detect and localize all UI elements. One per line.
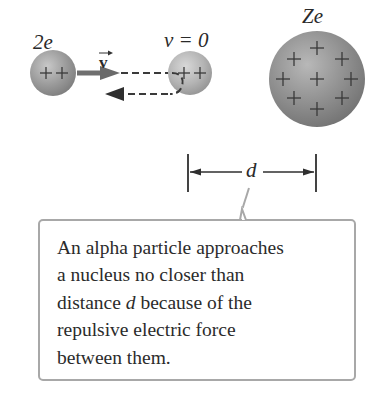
callout-text: An alpha particle approaches a nucleus n… — [57, 234, 357, 371]
stopped-velocity-label: v = 0 — [164, 30, 209, 51]
callout-box: An alpha particle approaches a nucleus n… — [38, 219, 356, 381]
callout-line-3: distance d because of the — [57, 289, 357, 316]
callout-line-3-post: because of the — [136, 292, 252, 313]
velocity-label: v — [99, 54, 108, 71]
nucleus-charge-label: Ze — [302, 6, 323, 27]
callout-notch — [228, 206, 258, 222]
callout-line-1: An alpha particle approaches — [57, 234, 357, 261]
nucleus — [269, 31, 365, 127]
alpha-charge-label: 2e — [33, 32, 53, 53]
v-eq-zero-text: v = 0 — [164, 28, 209, 52]
callout-line-2: a nucleus no closer than — [57, 261, 357, 288]
distance-label: d — [246, 160, 257, 181]
alpha-particle-moving — [30, 50, 76, 96]
callout-line-5: between them. — [57, 344, 357, 371]
callout-line-3-pre: distance — [57, 292, 126, 313]
callout-line-4: repulsive electric force — [57, 316, 357, 343]
callout-variable-d: d — [126, 292, 136, 313]
return-arrowhead-icon — [105, 87, 124, 101]
